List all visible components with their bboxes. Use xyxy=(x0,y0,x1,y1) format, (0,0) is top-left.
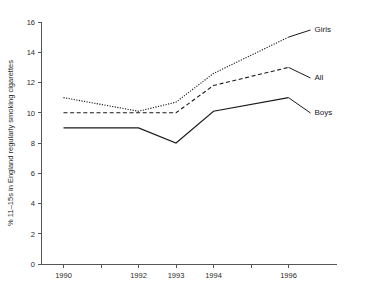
x-tick-label: 1990 xyxy=(55,271,72,280)
series-lines xyxy=(64,37,289,143)
leader-line-boys xyxy=(289,98,311,113)
y-tick-label: 12 xyxy=(27,78,35,87)
y-tick-label: 10 xyxy=(27,109,35,118)
x-tick-label: 1996 xyxy=(280,271,297,280)
y-axis-ticks xyxy=(38,22,42,264)
y-tick-label: 8 xyxy=(31,139,35,148)
x-axis-tick-labels: 19901992199319941996 xyxy=(55,271,297,280)
series-label-boys: Boys xyxy=(315,108,333,117)
y-tick-label: 6 xyxy=(31,169,35,178)
series-label-all: All xyxy=(315,73,324,82)
series-line-boys xyxy=(64,98,289,143)
series-line-girls xyxy=(64,37,289,111)
y-tick-label: 0 xyxy=(31,260,35,269)
y-tick-label: 16 xyxy=(27,18,35,27)
x-tick-label: 1994 xyxy=(205,271,222,280)
series-inline-legend: GirlsAllBoys xyxy=(289,25,333,117)
y-tick-label: 14 xyxy=(27,48,35,57)
chart-canvas: 0246810121416 19901992199319941996 % 11–… xyxy=(0,0,376,294)
y-axis-title: % 11–15s in England regularly smoking ci… xyxy=(6,60,15,226)
x-axis-ticks xyxy=(64,264,289,268)
series-label-girls: Girls xyxy=(315,25,331,34)
leader-line-all xyxy=(289,67,311,78)
x-axis: 19901992199319941996 xyxy=(41,264,337,280)
y-tick-label: 4 xyxy=(31,199,35,208)
y-axis-tick-labels: 0246810121416 xyxy=(27,18,35,269)
y-axis: 0246810121416 xyxy=(27,18,41,269)
x-tick-label: 1993 xyxy=(168,271,185,280)
series-line-all xyxy=(64,67,289,112)
y-tick-label: 2 xyxy=(31,230,35,239)
x-tick-label: 1992 xyxy=(130,271,147,280)
line-chart: 0246810121416 19901992199319941996 % 11–… xyxy=(0,0,376,294)
leader-line-girls xyxy=(289,30,311,37)
